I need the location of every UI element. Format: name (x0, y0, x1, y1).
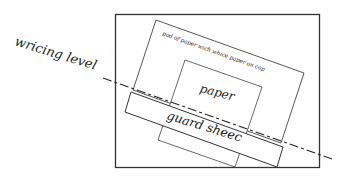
writing-level-label: wricing level (13, 34, 98, 73)
writing-setup-diagram: wricing level pad of paper wich whice pa… (0, 0, 343, 180)
pad-label: pad of paper wich whice paper on cop (161, 30, 266, 73)
